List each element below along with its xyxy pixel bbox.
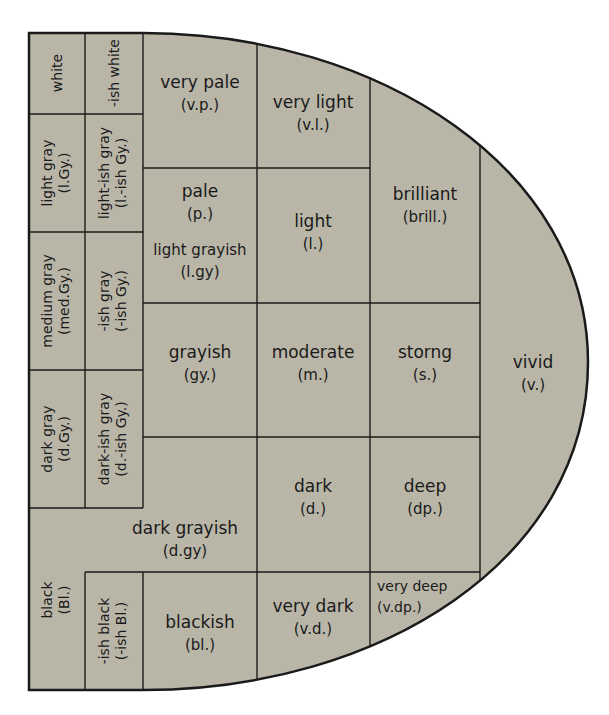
svg-text:(s.): (s.) [413,366,437,384]
cell-black: black (Bl.) [39,581,72,619]
svg-text:blackish: blackish [165,612,234,632]
svg-text:(bl.): (bl.) [185,636,215,654]
svg-text:black: black [39,581,55,619]
svg-text:light gray: light gray [39,140,55,207]
svg-text:(p.): (p.) [187,205,213,223]
svg-text:(l.-ish Gy.): (l.-ish Gy.) [113,138,129,208]
svg-text:-ish gray: -ish gray [96,270,112,331]
svg-text:light: light [294,211,332,231]
svg-text:(l.gy): (l.gy) [180,263,219,281]
svg-text:white: white [49,54,65,92]
cell-ish-black: -ish black (-ish Bl.) [96,597,129,665]
svg-text:dark grayish: dark grayish [132,518,238,538]
cell-medium-gray: medium gray (med.Gy.) [39,254,72,348]
svg-text:(v.l.): (v.l.) [296,116,329,134]
svg-text:(v.): (v.) [521,376,545,394]
svg-text:very dark: very dark [272,596,353,616]
svg-text:-ish black: -ish black [96,597,112,665]
svg-text:very deep: very deep [377,578,448,594]
svg-text:(d.Gy.): (d.Gy.) [56,416,72,462]
svg-text:dark gray: dark gray [39,405,55,472]
svg-text:very light: very light [273,92,354,112]
svg-text:vivid: vivid [513,352,553,372]
svg-text:(d.): (d.) [300,500,326,518]
svg-text:(brill.): (brill.) [403,208,448,226]
svg-text:(med.Gy.): (med.Gy.) [56,267,72,335]
svg-text:(d.-ish Gy.): (d.-ish Gy.) [113,401,129,476]
cell-ish-white: -ish white [106,39,122,107]
svg-text:(v.dp.): (v.dp.) [377,599,422,615]
svg-text:grayish: grayish [169,342,232,362]
svg-text:light-ish gray: light-ish gray [96,127,112,219]
svg-text:dark-ish gray: dark-ish gray [96,393,112,485]
cell-dark-ish-gray: dark-ish gray (d.-ish Gy.) [96,393,129,485]
svg-text:moderate: moderate [272,342,355,362]
svg-text:dark: dark [294,476,332,496]
svg-text:deep: deep [404,476,447,496]
svg-text:light grayish: light grayish [153,241,246,259]
svg-text:(Bl.): (Bl.) [56,586,72,615]
cell-light-ish-gray: light-ish gray (l.-ish Gy.) [96,127,129,219]
svg-text:(l.): (l.) [303,235,324,253]
svg-text:very pale: very pale [160,72,239,92]
cell-white: white [49,54,65,92]
svg-text:(v.d.): (v.d.) [294,620,332,638]
color-tone-diagram: white light gray (l.Gy.) medium gray (me… [0,0,609,715]
svg-text:pale: pale [182,181,218,201]
svg-text:(gy.): (gy.) [184,366,217,384]
cell-ish-gray: -ish gray (-ish Gy.) [96,270,129,332]
svg-text:(l.Gy.): (l.Gy.) [56,153,72,194]
svg-text:brilliant: brilliant [393,184,458,204]
svg-text:(m.): (m.) [297,366,328,384]
svg-text:medium gray: medium gray [39,254,55,348]
svg-text:(-ish Gy.): (-ish Gy.) [113,270,129,332]
svg-text:(-ish Bl.): (-ish Bl.) [113,602,129,660]
svg-text:(d.gy): (d.gy) [163,542,207,560]
svg-text:(v.p.): (v.p.) [181,96,219,114]
svg-text:-ish white: -ish white [106,39,122,107]
svg-text:storng: storng [398,342,452,362]
svg-text:(dp.): (dp.) [407,500,443,518]
